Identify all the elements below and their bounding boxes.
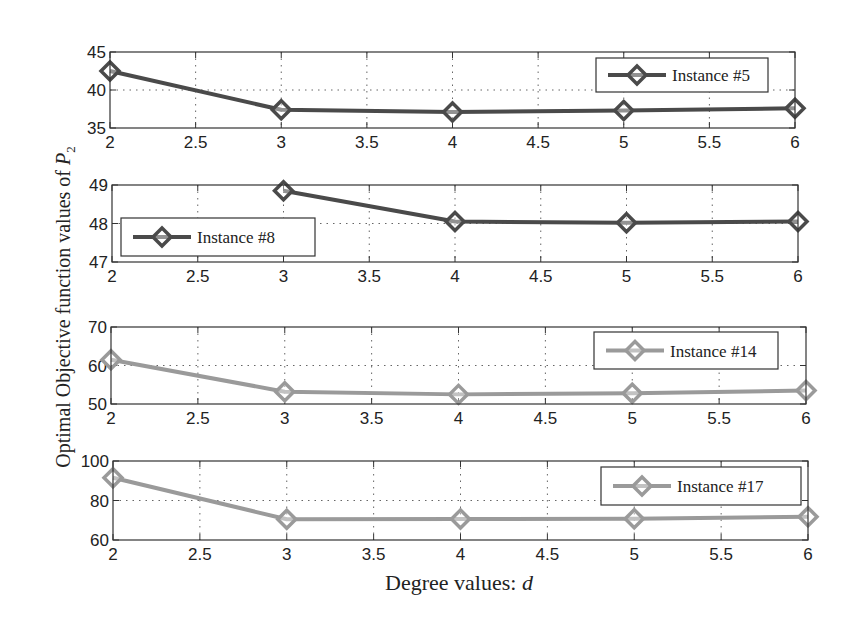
y-tick-label: 45	[87, 43, 106, 62]
diamond-marker	[452, 510, 470, 528]
legend: Instance #5	[596, 58, 768, 92]
legend-label: Instance #14	[670, 342, 757, 361]
legend-label: Instance #17	[677, 477, 764, 496]
x-tick-label: 6	[793, 267, 802, 286]
y-tick-label: 50	[88, 395, 107, 414]
x-tick-label: 3	[282, 545, 291, 564]
x-tick-label: 4	[456, 545, 465, 564]
y-tick-label: 40	[87, 81, 106, 100]
diamond-marker	[272, 101, 290, 119]
y-tick-label: 47	[89, 253, 108, 272]
chart-figure: 22.533.544.555.56354045Instance #522.533…	[0, 0, 857, 627]
x-tick-label: 3.5	[362, 545, 386, 564]
x-tick-label: 6	[803, 545, 812, 564]
x-tick-label: 5	[622, 267, 631, 286]
subplot-2: 22.533.544.555.56474849Instance #8	[89, 176, 807, 286]
x-tick-label: 4	[454, 409, 463, 428]
diamond-marker	[623, 384, 641, 402]
legend: Instance #8	[121, 218, 315, 256]
y-tick-label: 60	[90, 531, 109, 550]
diamond-marker	[444, 103, 462, 121]
x-tick-label: 4	[448, 133, 457, 152]
x-axis-title: Degree values: d	[385, 570, 534, 595]
y-tick-label: 35	[87, 119, 106, 138]
x-tick-label: 5	[628, 409, 637, 428]
x-tick-label: 4.5	[536, 545, 560, 564]
diamond-marker	[615, 102, 633, 120]
x-tick-label: 3.5	[360, 409, 384, 428]
y-tick-label: 48	[89, 215, 108, 234]
legend: Instance #14	[594, 332, 778, 369]
x-tick-label: 4.5	[534, 409, 558, 428]
x-tick-label: 2.5	[188, 545, 212, 564]
subplot-4: 22.533.544.555.566080100Instance #17	[81, 452, 817, 564]
x-tick-label: 2.5	[186, 267, 210, 286]
y-axis-title: Optimal Objective function values of P2	[52, 146, 78, 467]
x-tick-label: 6	[790, 133, 799, 152]
x-tick-label: 3.5	[355, 133, 379, 152]
x-tick-label: 3	[279, 267, 288, 286]
x-tick-label: 3	[277, 133, 286, 152]
y-tick-label: 100	[81, 452, 109, 471]
y-tick-label: 80	[90, 492, 109, 511]
x-tick-label: 5	[630, 545, 639, 564]
x-tick-label: 2	[108, 545, 117, 564]
diamond-marker	[276, 383, 294, 401]
subplot-1: 22.533.544.555.56354045Instance #5	[87, 43, 804, 152]
x-tick-label: 5.5	[698, 133, 722, 152]
x-tick-label: 6	[801, 409, 810, 428]
legend-label: Instance #8	[197, 228, 275, 247]
x-tick-label: 5.5	[700, 267, 724, 286]
x-tick-label: 4.5	[529, 267, 553, 286]
legend: Instance #17	[601, 467, 801, 505]
diamond-marker	[278, 510, 296, 528]
diamond-marker	[446, 213, 464, 231]
y-tick-label: 49	[89, 176, 108, 195]
subplot-3: 22.533.544.555.56506070Instance #14	[88, 318, 815, 428]
diamond-marker	[618, 214, 636, 232]
diamond-marker	[625, 510, 643, 528]
legend-label: Instance #5	[672, 66, 750, 85]
diamond-marker	[450, 385, 468, 403]
y-tick-label: 70	[88, 318, 107, 337]
x-tick-label: 3	[280, 409, 289, 428]
x-tick-label: 3.5	[357, 267, 381, 286]
x-tick-label: 5	[619, 133, 628, 152]
x-tick-label: 4	[450, 267, 459, 286]
x-tick-label: 2.5	[184, 133, 208, 152]
x-tick-label: 2	[105, 133, 114, 152]
x-tick-label: 2	[106, 409, 115, 428]
x-tick-label: 2	[107, 267, 116, 286]
x-tick-label: 2.5	[186, 409, 210, 428]
x-tick-label: 4.5	[526, 133, 550, 152]
x-tick-label: 5.5	[707, 409, 731, 428]
x-tick-label: 5.5	[709, 545, 733, 564]
